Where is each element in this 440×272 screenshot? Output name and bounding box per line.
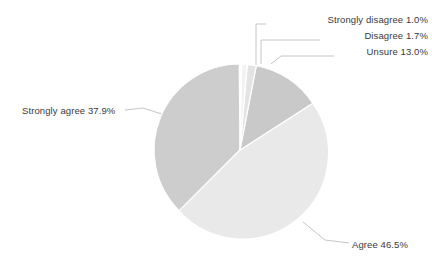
pie-slices [154,64,329,239]
pie-label-agree: Agree 46.5% [352,239,408,250]
pie-label-unsure: Unsure 13.0% [367,46,428,57]
leader-line-disagree [261,40,320,64]
pie-chart-figure: Strongly disagree 1.0% Disagree 1.7% Uns… [0,0,440,272]
pie-label-strongly-agree: Strongly agree 37.9% [22,105,115,116]
pie-label-strongly-disagree: Strongly disagree 1.0% [328,14,428,25]
leader-line-agree [303,222,349,243]
pie-label-disagree: Disagree 1.7% [364,30,428,41]
leader-line-unsure [271,56,334,64]
